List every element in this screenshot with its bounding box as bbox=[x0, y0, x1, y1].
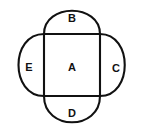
region-label-b: B bbox=[68, 13, 76, 24]
region-label-c: C bbox=[112, 63, 120, 74]
region-label-a: A bbox=[68, 62, 76, 73]
region-label-e: E bbox=[25, 62, 32, 73]
region-label-d: D bbox=[68, 108, 76, 119]
figure-container: B C D E A bbox=[0, 0, 142, 136]
